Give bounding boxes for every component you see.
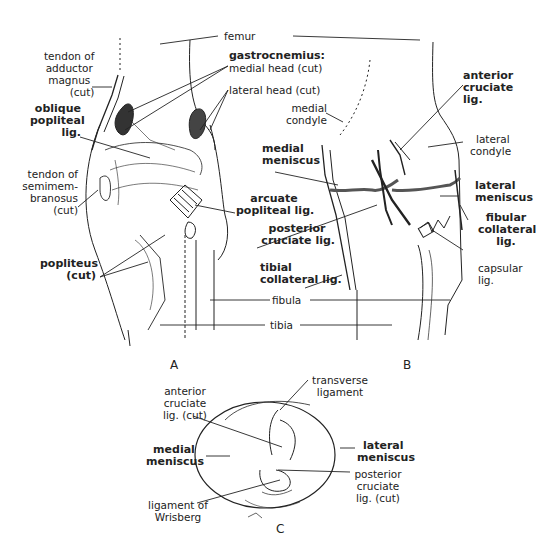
label-c-lateral-meniscus: lateral meniscus: [357, 440, 415, 464]
label-tibia: tibia: [270, 319, 293, 331]
label-posterior-cruciate-lig-cut: posterior cruciate lig. (cut): [350, 468, 406, 504]
label-line: medial head (cut): [229, 62, 325, 74]
label-line: popliteal lig.: [236, 205, 312, 217]
label-tendon-semimembranosus: tendon of semimem- branosus (cut): [20, 168, 78, 216]
label-line: cruciate: [150, 397, 220, 409]
label-anterior-cruciate-lig: anterior cruciate lig.: [463, 70, 513, 106]
label-anterior-cruciate-lig-cut: anterior cruciate lig. (cut): [150, 385, 220, 421]
label-fibular-collateral-lig: fibular collateral lig.: [478, 212, 534, 248]
label-line: cruciate lig.: [259, 235, 335, 247]
label-line: cruciate: [350, 480, 406, 492]
label-line: meniscus: [144, 456, 204, 468]
panel-label-b: B: [403, 358, 411, 372]
label-gastrocnemius-lateral-head: lateral head (cut): [229, 84, 320, 96]
label-lateral-meniscus: lateral meniscus: [475, 180, 533, 204]
label-medial-condyle: medial condyle: [285, 102, 327, 126]
label-line: transverse: [310, 374, 370, 386]
label-line: ligament: [310, 386, 370, 398]
label-line: tendon of: [44, 50, 94, 62]
label-line: lig.: [30, 127, 81, 139]
label-line: semimem-: [20, 180, 78, 192]
label-line: meniscus: [475, 192, 533, 204]
label-ligament-of-wrisberg: ligament of Wrisberg: [148, 499, 208, 523]
label-line: (cut): [40, 270, 96, 282]
label-line: lig.: [478, 274, 523, 286]
label-line: collateral lig.: [260, 274, 342, 286]
label-fibula: fibula: [272, 294, 301, 306]
panel-label-a: A: [170, 358, 178, 372]
label-line: meniscus: [357, 452, 415, 464]
label-line: Wrisberg: [148, 511, 208, 523]
label-line: (cut): [20, 204, 78, 216]
label-gastrocnemius-medial-head: gastrocnemius: medial head (cut): [229, 50, 325, 74]
label-tendon-adductor-magnus: tendon of adductor magnus (cut): [44, 50, 94, 98]
label-line: magnus: [44, 74, 94, 86]
panel-a-drawing: [86, 38, 228, 346]
label-c-medial-meniscus: medial meniscus: [144, 444, 204, 468]
label-line: medial: [285, 102, 327, 114]
label-line: tendon of: [20, 168, 78, 180]
label-line: posterior: [350, 468, 406, 480]
label-line: lig.: [463, 94, 513, 106]
label-line: branosus: [20, 192, 78, 204]
panel-label-c: C: [276, 522, 284, 536]
label-line: gastrocnemius:: [229, 50, 325, 62]
label-line: condyle: [285, 114, 327, 126]
label-capsular-lig: capsular lig.: [478, 262, 523, 286]
label-line: lig. (cut): [150, 409, 220, 421]
label-tibial-collateral-lig: tibial collateral lig.: [260, 262, 342, 286]
label-popliteus-cut: popliteus (cut): [40, 258, 96, 282]
label-oblique-popliteal-lig: oblique popliteal lig.: [30, 103, 81, 139]
label-line: ligament of: [148, 499, 208, 511]
label-posterior-cruciate-lig: posterior cruciate lig.: [259, 223, 335, 247]
label-line: meniscus: [262, 155, 320, 167]
label-line: adductor: [44, 62, 94, 74]
label-line: capsular: [478, 262, 523, 274]
label-femur: femur: [224, 30, 255, 42]
label-line: anterior: [150, 385, 220, 397]
label-medial-meniscus: medial meniscus: [262, 143, 320, 167]
panel-b-drawing: [322, 42, 462, 340]
label-transverse-ligament: transverse ligament: [310, 374, 370, 398]
label-arcuate-popliteal-lig: arcuate popliteal lig.: [236, 193, 312, 217]
label-line: lig. (cut): [350, 492, 406, 504]
label-line: lateral: [470, 133, 511, 145]
label-line: condyle: [470, 145, 511, 157]
label-line: lig.: [478, 236, 534, 248]
label-line: (cut): [44, 86, 94, 98]
label-lateral-condyle: lateral condyle: [470, 133, 511, 157]
